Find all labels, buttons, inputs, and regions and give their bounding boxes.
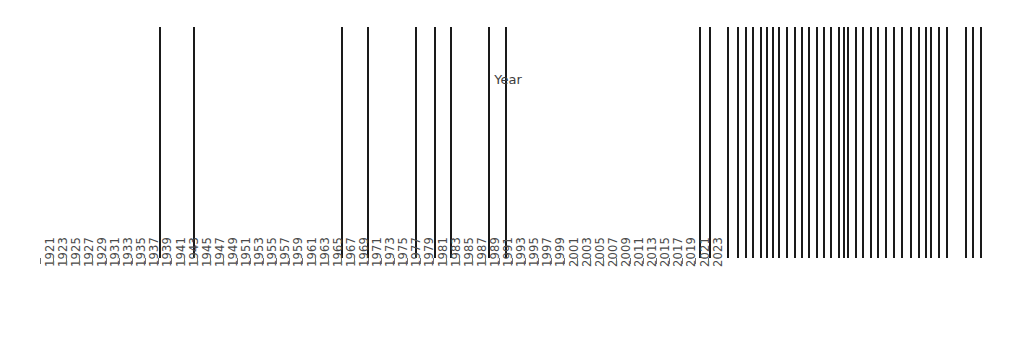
x-axis-tick [250,258,251,264]
x-axis-tick-label: 1993 [516,237,528,267]
x-axis-tick-label: 2011 [634,237,646,267]
x-axis-tick [564,258,565,264]
x-axis-tick-label: 1991 [503,237,515,267]
x-axis-tick-label: 1971 [372,237,384,267]
x-axis-tick [420,258,421,264]
rug-mark [808,27,810,258]
rug-mark [159,27,161,258]
x-axis-tick [616,258,617,264]
x-axis-tick [682,258,683,264]
x-axis-tick [590,258,591,264]
x-axis-tick [354,258,355,264]
x-axis-tick [119,258,120,264]
rug-mark [415,27,417,258]
x-axis-tick-label: 1973 [385,237,397,267]
x-axis-tick-label: 1999 [555,237,567,267]
x-axis-tick [695,258,696,264]
x-axis-tick [499,258,500,264]
rug-plot-figure: 1921192319251927192919311933193519371939… [0,0,1016,347]
x-axis-tick [276,258,277,264]
x-axis-tick [603,258,604,264]
x-axis-tick-label: 1947 [215,237,227,267]
x-axis-tick [472,258,473,264]
x-axis-tick [79,258,80,264]
rug-mark [434,27,436,258]
x-axis-tick [669,258,670,264]
rug-mark [766,27,768,258]
x-axis-tick [656,258,657,264]
x-axis-tick [184,258,185,264]
x-axis-tick [66,258,67,264]
x-axis-tick-label: 2009 [621,237,633,267]
x-axis-tick-label: 1939 [162,237,174,267]
rug-mark [930,27,932,258]
x-axis-tick [53,258,54,264]
x-axis-tick-label: 1961 [307,237,319,267]
x-axis-tick-label: 1931 [110,237,122,267]
x-axis-tick-label: 2019 [686,237,698,267]
rug-mark [737,27,739,258]
x-axis-tick-label: 2023 [713,237,725,267]
rug-mark [709,27,711,258]
x-axis-tick-label: 1981 [438,237,450,267]
x-axis-tick [551,258,552,264]
rug-mark [843,27,845,258]
rug-mark [938,27,940,258]
x-axis-tick-label: 2003 [582,237,594,267]
rug-mark [778,27,780,258]
rug-mark [830,27,832,258]
rug-mark [823,27,825,258]
x-axis-tick-label: 1925 [71,237,83,267]
x-axis-tick-label: 1959 [293,237,305,267]
rug-mark [772,27,774,258]
rug-mark [801,27,803,258]
x-axis-tick-label: 2015 [660,237,672,267]
rug-mark [752,27,754,258]
rug-mark [505,27,507,258]
x-axis-tick [643,258,644,264]
x-axis-tick-label: 1943 [189,237,201,267]
x-axis-tick [289,258,290,264]
x-axis-tick-label: 2005 [595,237,607,267]
x-axis-tick [223,258,224,264]
x-axis-tick-label: 1975 [398,237,410,267]
rug-mark [794,27,796,258]
rug-mark [980,27,982,258]
x-axis-tick [407,258,408,264]
rug-mark [838,27,840,258]
x-axis-tick [485,258,486,264]
x-axis-tick [525,258,526,264]
x-axis-tick-label: 1995 [529,237,541,267]
x-axis-tick [263,258,264,264]
rug-mark [893,27,895,258]
x-axis-tick-label: 1941 [176,237,188,267]
x-axis-tick [630,258,631,264]
x-axis-tick-label: 1923 [58,237,70,267]
x-axis-tick-label: 2021 [700,237,712,267]
x-axis-tick [368,258,369,264]
rug-mark [870,27,872,258]
x-axis-tick [197,258,198,264]
x-axis-tick-label: 1983 [451,237,463,267]
x-axis-tick-label: 1933 [123,237,135,267]
x-axis-tick [341,258,342,264]
rug-mark [193,27,195,258]
rug-mark [965,27,967,258]
x-axis-tick-label: 1945 [202,237,214,267]
x-axis-tick [158,258,159,264]
x-axis-tick-label: 1929 [97,237,109,267]
x-axis-tick [446,258,447,264]
x-axis-label: Year [0,72,1016,87]
x-axis-tick-label: 1979 [424,237,436,267]
rug-mark [786,27,788,258]
rug-mark [847,27,849,258]
x-axis-tick-label: 2001 [569,237,581,267]
x-axis-tick-label: 2013 [647,237,659,267]
rug-mark [699,27,701,258]
rug-mark [946,27,948,258]
x-axis-tick [328,258,329,264]
rug-mark [972,27,974,258]
x-axis-tick-label: 1989 [490,237,502,267]
x-axis-tick [708,258,709,264]
x-axis-tick-label: 1987 [477,237,489,267]
